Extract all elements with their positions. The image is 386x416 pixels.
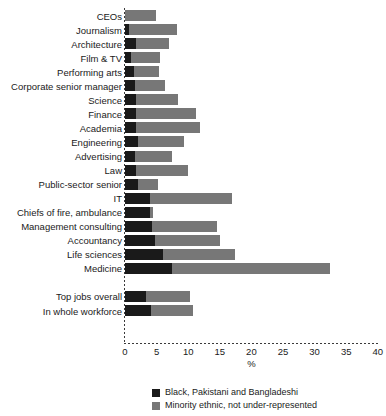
- stacked-bar-chart: CEOsJournalismArchitectureFilm & TVPerfo…: [0, 0, 386, 416]
- bar-row: Engineering: [0, 135, 386, 148]
- legend-swatch-black-icon: [152, 389, 160, 397]
- bar-segment-minority: [136, 108, 196, 119]
- bar-row-label: In whole workforce: [43, 305, 122, 316]
- legend-label-black: Black, Pakistani and Bangladeshi: [165, 386, 298, 399]
- stacked-bar: [125, 108, 196, 119]
- legend-item-minority: Minority ethnic, not under-represented: [152, 399, 317, 412]
- stacked-bar: [125, 207, 153, 218]
- x-axis-tick-label: 0: [122, 346, 127, 357]
- plot-area: CEOsJournalismArchitectureFilm & TVPerfo…: [0, 0, 386, 416]
- bar-row: Finance: [0, 107, 386, 120]
- x-axis-line: [124, 343, 378, 344]
- bar-segment-minority: [136, 38, 169, 49]
- bar-row-label: CEOs: [97, 10, 122, 21]
- bar-segment-black: [125, 249, 163, 260]
- bar-row-label: Chiefs of fire, ambulance: [17, 207, 122, 218]
- stacked-bar: [125, 10, 156, 21]
- stacked-bar: [125, 235, 220, 246]
- bar-segment-minority: [150, 193, 232, 204]
- bar-segment-black: [125, 305, 151, 316]
- bar-row: Life sciences: [0, 248, 386, 261]
- legend-swatch-grey-icon: [152, 402, 160, 410]
- bar-row: Academia: [0, 121, 386, 134]
- bar-row-label: Medicine: [84, 263, 122, 274]
- bar-row: CEOs: [0, 9, 386, 22]
- bar-row-label: IT: [114, 193, 122, 204]
- x-axis-tick-label: 30: [309, 346, 320, 357]
- bar-row-label: Performing arts: [57, 66, 122, 77]
- bar-segment-black: [125, 151, 135, 162]
- bar-segment-minority: [152, 221, 217, 232]
- bar-row-label: Law: [105, 165, 122, 176]
- bar-segment-minority: [155, 235, 220, 246]
- stacked-bar: [125, 305, 193, 316]
- bar-row: Public-sector senior: [0, 178, 386, 191]
- bar-segment-black: [125, 66, 134, 77]
- bar-segment-minority: [136, 165, 188, 176]
- bar-row-label: Engineering: [71, 136, 122, 147]
- bar-segment-minority: [136, 94, 178, 105]
- bar-row-label: Accountancy: [68, 235, 122, 246]
- bar-row: Science: [0, 93, 386, 106]
- x-axis-title: %: [247, 358, 255, 369]
- bar-segment-minority: [135, 151, 172, 162]
- bar-row: Architecture: [0, 37, 386, 50]
- bar-row-label: Academia: [80, 122, 122, 133]
- bar-segment-minority: [135, 80, 165, 91]
- bar-segment-black: [125, 122, 136, 133]
- bar-row: Chiefs of fire, ambulance: [0, 206, 386, 219]
- bar-row-label: Journalism: [76, 24, 122, 35]
- x-axis-tick-label: 15: [215, 346, 226, 357]
- bar-segment-minority: [138, 136, 185, 147]
- bar-row: Accountancy: [0, 234, 386, 247]
- stacked-bar: [125, 291, 190, 302]
- stacked-bar: [125, 249, 235, 260]
- bar-segment-minority: [146, 291, 190, 302]
- x-axis-tick-label: 5: [154, 346, 159, 357]
- stacked-bar: [125, 193, 232, 204]
- stacked-bar: [125, 94, 178, 105]
- bar-row-label: Top jobs overall: [56, 291, 122, 302]
- bar-segment-black: [125, 94, 136, 105]
- bar-row: Medicine: [0, 262, 386, 275]
- bar-segment-black: [125, 193, 150, 204]
- x-axis-tick-label: 10: [183, 346, 194, 357]
- bar-segment-minority: [125, 10, 156, 21]
- stacked-bar: [125, 52, 160, 63]
- bar-row-label: Management consulting: [21, 221, 122, 232]
- bar-segment-black: [125, 80, 135, 91]
- bar-segment-minority: [134, 66, 159, 77]
- bar-row-label: Film & TV: [80, 52, 122, 63]
- stacked-bar: [125, 66, 159, 77]
- bar-segment-minority: [138, 179, 158, 190]
- bar-row: In whole workforce: [0, 304, 386, 317]
- bar-row-label: Life sciences: [67, 249, 122, 260]
- stacked-bar: [125, 221, 217, 232]
- bar-row: Performing arts: [0, 65, 386, 78]
- bar-segment-black: [125, 108, 136, 119]
- bar-segment-minority: [150, 207, 153, 218]
- bar-row-label: Public-sector senior: [39, 179, 122, 190]
- bar-row: Advertising: [0, 150, 386, 163]
- bar-segment-black: [125, 235, 155, 246]
- stacked-bar: [125, 136, 184, 147]
- x-axis-tick-label: 35: [341, 346, 352, 357]
- legend-item-black: Black, Pakistani and Bangladeshi: [152, 386, 317, 399]
- bar-segment-minority: [129, 24, 178, 35]
- legend-label-minority: Minority ethnic, not under-represented: [165, 399, 317, 412]
- bar-row: Top jobs overall: [0, 290, 386, 303]
- bar-segment-minority: [163, 249, 235, 260]
- bar-segment-minority: [136, 122, 200, 133]
- stacked-bar: [125, 151, 172, 162]
- bar-row-label: Corporate senior manager: [11, 80, 122, 91]
- bar-row: Management consulting: [0, 220, 386, 233]
- bar-segment-black: [125, 207, 150, 218]
- bar-row: IT: [0, 192, 386, 205]
- stacked-bar: [125, 80, 165, 91]
- stacked-bar: [125, 24, 177, 35]
- bar-segment-black: [125, 179, 138, 190]
- bar-segment-minority: [172, 263, 331, 274]
- bar-segment-minority: [131, 52, 159, 63]
- stacked-bar: [125, 165, 188, 176]
- x-axis-tick-label: 25: [278, 346, 289, 357]
